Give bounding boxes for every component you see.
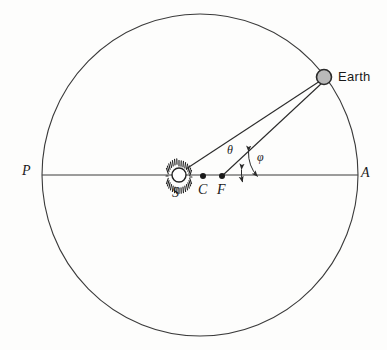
eccentric-anomaly-arc: [241, 170, 242, 183]
true-anomaly-label: φ: [257, 150, 264, 165]
sun-icon: [166, 159, 192, 194]
aphelion-label: A: [361, 165, 370, 181]
earth-body-icon: [317, 70, 332, 85]
focus-label: F: [217, 182, 226, 198]
sun-label: S: [172, 185, 179, 201]
center-to-earth-line: [186, 81, 320, 169]
earth-label: Earth: [338, 69, 371, 84]
eccentric-anomaly-label: θ: [227, 143, 233, 158]
ellipse-center-label: C: [198, 182, 207, 198]
diagram-canvas: [0, 0, 387, 350]
focus-point: [219, 173, 225, 179]
ellipse-center-point: [200, 173, 206, 179]
focus-to-earth-line: [222, 83, 322, 176]
perihelion-label: P: [22, 163, 31, 179]
orbital-diagram: P A S C F θ φ Earth: [0, 0, 387, 350]
